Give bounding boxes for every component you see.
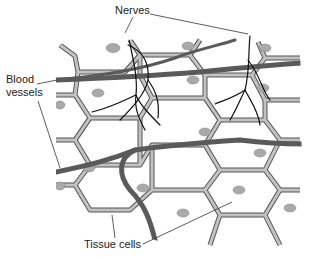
- tissue-diagram: [0, 0, 309, 258]
- blood-vessels-leader-2: [38, 101, 60, 168]
- nerves-leader-1: [125, 17, 133, 33]
- nerves-leader-2: [150, 14, 248, 34]
- blood-vessels-label-line2: vessels: [6, 86, 43, 98]
- nerves-label: Nerves: [115, 4, 150, 16]
- blood-vessels-label-line1: Blood: [6, 73, 34, 85]
- tissue-cells-leader-1: [112, 215, 115, 238]
- blood-vessels-leader-1: [37, 80, 57, 84]
- tissue-cells-label: Tissue cells: [84, 238, 141, 250]
- tissue-cells-group: [55, 35, 305, 245]
